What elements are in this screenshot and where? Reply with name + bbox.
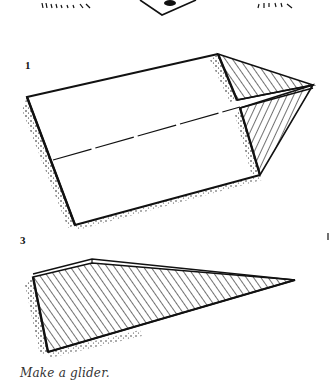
illustration: 1 3 Make a glider. (0, 0, 330, 383)
step-3-drawing (25, 259, 295, 358)
step-1-drawing (22, 54, 313, 230)
previous-step-fragment (42, 0, 292, 15)
step-1-label: 1 (25, 59, 31, 71)
step-3-label: 3 (20, 234, 26, 246)
glider-drawing (0, 0, 330, 383)
figure-caption: Make a glider. (20, 366, 110, 380)
